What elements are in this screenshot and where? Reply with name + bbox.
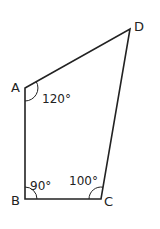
angle-label-b: 90° [30, 179, 51, 193]
vertex-label-b: B [11, 193, 20, 208]
vertex-label-c: C [104, 194, 113, 209]
angle-label-a: 120° [42, 92, 71, 106]
quadrilateral-diagram: A B C D 120° 90° 100° [0, 0, 160, 229]
vertex-label-a: A [11, 80, 20, 95]
angle-label-c: 100° [69, 174, 98, 188]
vertex-label-d: D [134, 19, 144, 34]
